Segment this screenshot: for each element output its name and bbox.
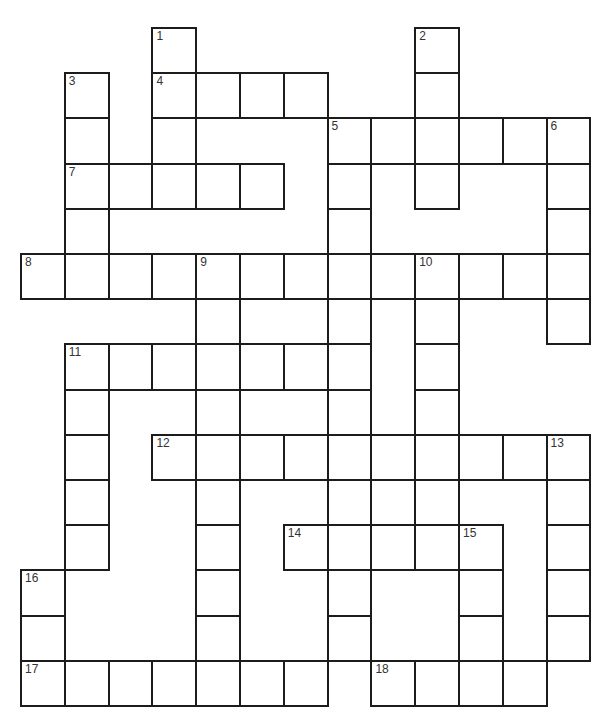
crossword-cell[interactable]: 5: [327, 117, 373, 164]
crossword-cell[interactable]: [195, 389, 241, 436]
crossword-cell[interactable]: [283, 253, 329, 300]
crossword-cell[interactable]: 13: [546, 434, 592, 481]
crossword-cell[interactable]: [64, 660, 110, 707]
crossword-cell[interactable]: [239, 434, 285, 481]
crossword-cell[interactable]: [283, 434, 329, 481]
crossword-cell[interactable]: [458, 434, 504, 481]
crossword-cell[interactable]: [108, 253, 154, 300]
crossword-cell[interactable]: 17: [20, 660, 66, 707]
crossword-cell[interactable]: [151, 660, 197, 707]
crossword-cell[interactable]: [458, 615, 504, 662]
crossword-cell[interactable]: [327, 615, 373, 662]
crossword-cell[interactable]: [239, 253, 285, 300]
crossword-cell[interactable]: 11: [64, 343, 110, 390]
crossword-cell[interactable]: [20, 615, 66, 662]
crossword-cell[interactable]: 12: [151, 434, 197, 481]
crossword-cell[interactable]: 14: [283, 524, 329, 571]
crossword-cell[interactable]: [502, 434, 548, 481]
crossword-cell[interactable]: [239, 72, 285, 119]
crossword-cell[interactable]: [327, 389, 373, 436]
crossword-cell[interactable]: 4: [151, 72, 197, 119]
crossword-cell[interactable]: [283, 343, 329, 390]
crossword-cell[interactable]: [195, 72, 241, 119]
crossword-cell[interactable]: 10: [414, 253, 460, 300]
crossword-cell[interactable]: [327, 569, 373, 616]
crossword-cell[interactable]: [546, 569, 592, 616]
crossword-cell[interactable]: [370, 524, 416, 571]
crossword-cell[interactable]: [108, 660, 154, 707]
crossword-cell[interactable]: [327, 524, 373, 571]
crossword-cell[interactable]: [370, 253, 416, 300]
crossword-cell[interactable]: [64, 434, 110, 481]
crossword-cell[interactable]: [546, 524, 592, 571]
crossword-cell[interactable]: [414, 524, 460, 571]
crossword-cell[interactable]: [151, 117, 197, 164]
crossword-cell[interactable]: [414, 660, 460, 707]
crossword-cell[interactable]: [327, 434, 373, 481]
crossword-cell[interactable]: [327, 343, 373, 390]
crossword-cell[interactable]: [546, 208, 592, 255]
crossword-cell[interactable]: [64, 253, 110, 300]
crossword-cell[interactable]: [195, 298, 241, 345]
crossword-cell[interactable]: [414, 343, 460, 390]
crossword-cell[interactable]: [151, 343, 197, 390]
crossword-cell[interactable]: [195, 524, 241, 571]
crossword-cell[interactable]: [64, 208, 110, 255]
crossword-cell[interactable]: [370, 117, 416, 164]
crossword-cell[interactable]: [414, 389, 460, 436]
crossword-cell[interactable]: 3: [64, 72, 110, 119]
crossword-cell[interactable]: [64, 479, 110, 526]
crossword-cell[interactable]: [108, 163, 154, 210]
crossword-cell[interactable]: [327, 208, 373, 255]
crossword-cell[interactable]: 9: [195, 253, 241, 300]
crossword-cell[interactable]: [458, 569, 504, 616]
crossword-cell[interactable]: [195, 479, 241, 526]
crossword-cell[interactable]: [64, 524, 110, 571]
crossword-cell[interactable]: [502, 660, 548, 707]
crossword-cell[interactable]: [151, 253, 197, 300]
crossword-cell[interactable]: [546, 163, 592, 210]
crossword-cell[interactable]: [414, 163, 460, 210]
crossword-cell[interactable]: [546, 615, 592, 662]
crossword-cell[interactable]: [195, 569, 241, 616]
crossword-cell[interactable]: [108, 343, 154, 390]
crossword-cell[interactable]: [370, 434, 416, 481]
crossword-cell[interactable]: [546, 479, 592, 526]
crossword-cell[interactable]: [546, 253, 592, 300]
crossword-cell[interactable]: [151, 163, 197, 210]
crossword-cell[interactable]: [414, 298, 460, 345]
crossword-cell[interactable]: 16: [20, 569, 66, 616]
crossword-cell[interactable]: [64, 389, 110, 436]
crossword-cell[interactable]: [195, 343, 241, 390]
crossword-cell[interactable]: [195, 615, 241, 662]
crossword-cell[interactable]: [239, 343, 285, 390]
crossword-cell[interactable]: [458, 253, 504, 300]
crossword-cell[interactable]: [327, 163, 373, 210]
crossword-cell[interactable]: 2: [414, 27, 460, 74]
crossword-cell[interactable]: 15: [458, 524, 504, 571]
crossword-cell[interactable]: [283, 72, 329, 119]
crossword-cell[interactable]: [370, 479, 416, 526]
crossword-cell[interactable]: [64, 117, 110, 164]
crossword-cell[interactable]: 8: [20, 253, 66, 300]
crossword-cell[interactable]: [327, 479, 373, 526]
crossword-cell[interactable]: [239, 163, 285, 210]
crossword-cell[interactable]: [195, 434, 241, 481]
crossword-cell[interactable]: 6: [546, 117, 592, 164]
crossword-cell[interactable]: 7: [64, 163, 110, 210]
crossword-cell[interactable]: [195, 660, 241, 707]
crossword-cell[interactable]: [414, 72, 460, 119]
crossword-cell[interactable]: [239, 660, 285, 707]
crossword-cell[interactable]: [327, 298, 373, 345]
crossword-cell[interactable]: [458, 660, 504, 707]
crossword-cell[interactable]: [195, 163, 241, 210]
crossword-cell[interactable]: 18: [370, 660, 416, 707]
crossword-cell[interactable]: [502, 117, 548, 164]
crossword-cell[interactable]: [414, 434, 460, 481]
crossword-cell[interactable]: [414, 479, 460, 526]
crossword-cell[interactable]: 1: [151, 27, 197, 74]
crossword-cell[interactable]: [283, 660, 329, 707]
crossword-cell[interactable]: [327, 253, 373, 300]
crossword-cell[interactable]: [502, 253, 548, 300]
crossword-cell[interactable]: [546, 298, 592, 345]
